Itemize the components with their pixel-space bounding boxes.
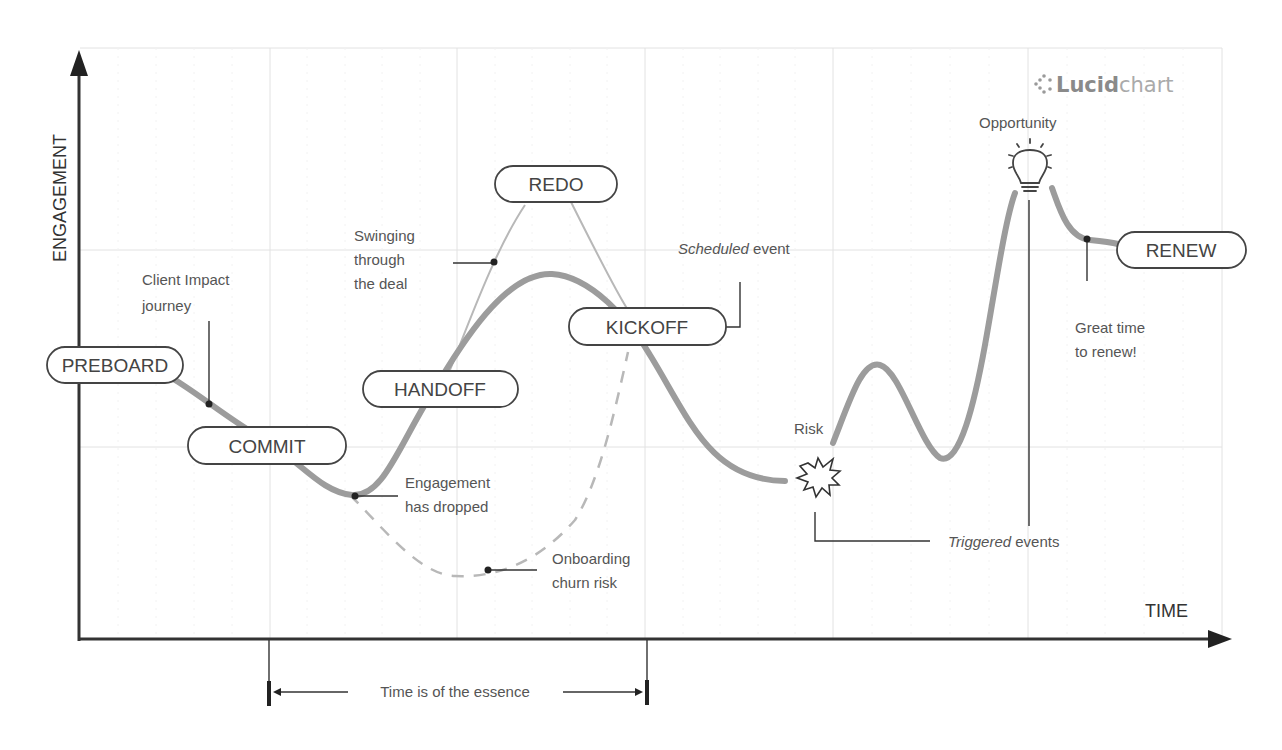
lucidchart-logo: Lucidchart [1034,73,1173,97]
time-span-indicator: Time is of the essence [267,640,649,706]
client-impact-annotation: Client Impact journey [141,271,234,314]
stage-commit[interactable]: COMMIT [188,427,346,464]
swinging-annotation: Swinging through the deal [354,227,419,292]
right-arrow-icon [635,688,643,696]
x-axis-arrow-icon [1208,630,1232,648]
y-axis [70,50,88,641]
time-span-label: Time is of the essence [380,683,530,700]
scheduled-event-annotation: Scheduled event [678,240,791,257]
explosion-burst-icon [797,458,840,497]
x-axis [78,630,1232,648]
logo-bold-text: Lucid [1056,73,1119,97]
lucidchart-logo-icon [1034,74,1052,94]
stage-renew-label: RENEW [1146,240,1217,261]
x-axis-label: TIME [1145,601,1188,621]
engagement-dropped-annotation: Engagement has dropped [405,474,494,515]
stage-handoff[interactable]: HANDOFF [363,371,518,407]
y-axis-label: ENGAGEMENT [50,134,70,262]
stage-preboard[interactable]: PREBOARD [47,347,183,383]
left-arrow-icon [273,688,281,696]
callout-dots [206,236,1091,574]
opportunity-annotation: Opportunity [979,114,1057,131]
triggered-events-annotation: Triggered events [948,533,1059,550]
stage-kickoff-label: KICKOFF [606,317,688,338]
churn-risk-annotation: Onboarding churn risk [552,550,635,591]
svg-text:Lucidchart: Lucidchart [1056,73,1174,97]
stage-renew[interactable]: RENEW [1117,232,1246,268]
risk-annotation: Risk [794,420,824,437]
y-axis-arrow-icon [70,50,88,76]
stage-kickoff[interactable]: KICKOFF [569,308,726,345]
callouts [209,200,1087,570]
lightbulb-icon [1009,139,1051,191]
stage-redo[interactable]: REDO [495,166,617,202]
logo-light-text: chart [1119,73,1174,97]
great-time-annotation: Great time to renew! [1075,319,1149,360]
stage-preboard-label: PREBOARD [62,355,169,376]
stage-handoff-label: HANDOFF [394,379,486,400]
stage-redo-label: REDO [529,174,584,195]
customer-journey-diagram: ENGAGEMENT TIME Lucidchart PREBOARD [0,0,1282,750]
stage-commit-label: COMMIT [228,436,305,457]
